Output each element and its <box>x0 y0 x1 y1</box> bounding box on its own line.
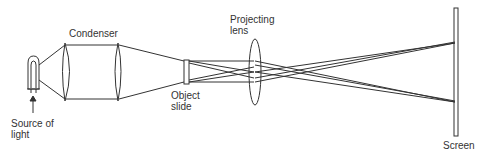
object-slide <box>184 60 189 84</box>
screen <box>454 8 458 136</box>
condenser-lens-2 <box>115 43 121 101</box>
object-slide-label: Object slide <box>171 90 200 112</box>
object-slide-label-line1: Object <box>171 90 200 101</box>
source-of-light-label-line1: Source of <box>11 118 54 129</box>
condenser-lens-1 <box>63 43 70 101</box>
projecting-lens-label-line1: Projecting <box>230 14 274 25</box>
arrow-up-icon <box>30 96 36 113</box>
source-of-light-label-line2: light <box>11 129 54 140</box>
object-slide-label-line2: slide <box>171 101 200 112</box>
source-of-light-label: Source of light <box>11 118 54 140</box>
condenser-label: Condenser <box>69 28 118 39</box>
screen-label: Screen <box>443 140 475 151</box>
projecting-lens-label-line2: lens <box>230 25 274 36</box>
light-bulb-icon <box>27 56 40 93</box>
projecting-lens-label: Projecting lens <box>230 14 274 36</box>
